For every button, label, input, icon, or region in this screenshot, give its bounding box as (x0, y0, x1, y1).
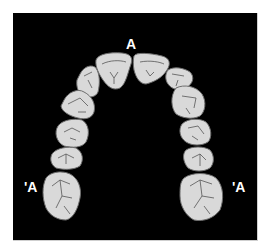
tooth-right-first-premolar (180, 119, 211, 145)
tooth-right-canine (172, 86, 205, 118)
label-right: 'A (232, 180, 245, 194)
tooth-left-first-premolar (56, 119, 88, 147)
label-left: 'A (24, 180, 37, 194)
tooth-left-second-premolar (51, 147, 83, 169)
tooth-right-second-premolar (184, 147, 214, 171)
label-top: A (126, 37, 136, 51)
tooth-right-central-incisor (133, 53, 169, 84)
